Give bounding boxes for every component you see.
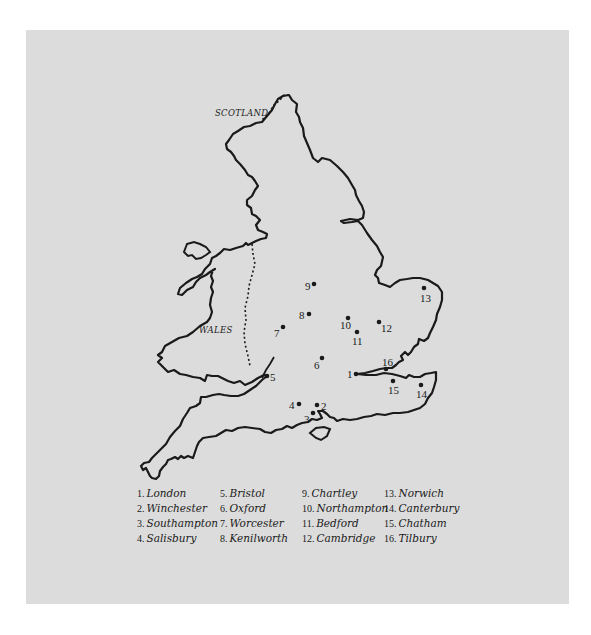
location-marker-bristol xyxy=(265,374,270,379)
legend-place-name: Winchester xyxy=(147,502,207,514)
legend-number: 13. xyxy=(384,488,397,499)
location-number-label: 5 xyxy=(270,371,276,383)
legend-number: 5. xyxy=(220,488,228,499)
legend-number: 2. xyxy=(137,503,145,514)
legend-place-name: Cambridge xyxy=(317,532,376,544)
location-number-label: 13 xyxy=(420,292,432,304)
location-number-label: 16 xyxy=(382,356,394,368)
legend-item: 11.Bedford xyxy=(302,516,384,531)
legend-place-name: Worcester xyxy=(230,517,284,529)
location-number-label: 12 xyxy=(381,322,392,334)
legend-item: 15.Chatham xyxy=(384,516,474,531)
legend-item: 5.Bristol xyxy=(220,486,302,501)
legend-place-name: Norwich xyxy=(399,487,445,499)
legend-item: 14.Canterbury xyxy=(384,501,474,516)
location-marker-kenilworth xyxy=(307,312,312,317)
legend-number: 8. xyxy=(220,533,228,544)
legend-item: 6.Oxford xyxy=(220,501,302,516)
location-number-label: 8 xyxy=(299,309,305,321)
legend: 1.London5.Bristol9.Chartley13.Norwich2.W… xyxy=(137,486,477,546)
wales-border xyxy=(244,244,255,366)
location-marker-canterbury xyxy=(419,383,424,388)
location-marker-oxford xyxy=(320,356,325,361)
location-number-label: 9 xyxy=(305,280,311,292)
legend-number: 16. xyxy=(384,533,397,544)
location-number-label: 1 xyxy=(347,368,353,380)
legend-item: 1.London xyxy=(137,486,220,501)
legend-number: 15. xyxy=(384,518,397,529)
location-marker-worcester xyxy=(281,325,286,330)
legend-number: 9. xyxy=(302,488,310,499)
location-number-label: 3 xyxy=(304,413,310,425)
legend-number: 3. xyxy=(137,518,145,529)
legend-number: 7. xyxy=(220,518,228,529)
legend-item: 10.Northampton xyxy=(302,501,384,516)
coastline xyxy=(141,95,442,479)
legend-place-name: Tilbury xyxy=(399,532,437,544)
legend-item: 8.Kenilworth xyxy=(220,531,302,546)
location-marker-london xyxy=(354,372,359,377)
location-marker-chatham xyxy=(391,379,396,384)
location-number-label: 10 xyxy=(340,319,352,331)
legend-place-name: Southampton xyxy=(147,517,219,529)
legend-number: 12. xyxy=(302,533,315,544)
legend-number: 10. xyxy=(302,503,315,514)
location-marker-norwich xyxy=(422,286,427,291)
anglesey-island xyxy=(184,242,210,259)
legend-place-name: Chatham xyxy=(399,517,447,529)
legend-item: 2.Winchester xyxy=(137,501,220,516)
legend-place-name: Chartley xyxy=(312,487,358,499)
legend-item: 7.Worcester xyxy=(220,516,302,531)
legend-place-name: Bristol xyxy=(230,487,265,499)
legend-place-name: Canterbury xyxy=(399,502,460,514)
location-number-label: 14 xyxy=(416,388,428,400)
location-number-label: 7 xyxy=(274,327,280,339)
legend-place-name: Oxford xyxy=(230,502,266,514)
legend-place-name: Salisbury xyxy=(147,532,197,544)
legend-place-name: Northampton xyxy=(317,502,389,514)
location-number-label: 2 xyxy=(321,400,327,412)
location-marker-bedford xyxy=(355,330,360,335)
legend-item: 9.Chartley xyxy=(302,486,384,501)
location-marker-chartley xyxy=(312,282,317,287)
legend-number: 14. xyxy=(384,503,397,514)
legend-item: 4.Salisbury xyxy=(137,531,220,546)
location-marker-salisbury xyxy=(297,402,302,407)
legend-number: 6. xyxy=(220,503,228,514)
location-number-label: 11 xyxy=(352,335,363,347)
legend-place-name: London xyxy=(147,487,187,499)
isle-of-wight xyxy=(310,427,330,440)
location-number-label: 4 xyxy=(289,399,295,411)
legend-item: 3.Southampton xyxy=(137,516,220,531)
legend-number: 4. xyxy=(137,533,145,544)
location-number-label: 15 xyxy=(388,384,400,396)
legend-item: 16.Tilbury xyxy=(384,531,474,546)
location-marker-winchester xyxy=(315,403,320,408)
legend-number: 1. xyxy=(137,488,145,499)
legend-number: 11. xyxy=(302,518,314,529)
region-label-wales: WALES xyxy=(199,325,233,335)
legend-place-name: Kenilworth xyxy=(230,532,289,544)
location-number-label: 6 xyxy=(314,359,320,371)
region-label-scotland: SCOTLAND xyxy=(215,108,268,118)
legend-item: 13.Norwich xyxy=(384,486,474,501)
legend-item: 12.Cambridge xyxy=(302,531,384,546)
legend-place-name: Bedford xyxy=(316,517,359,529)
location-marker-southampton xyxy=(311,411,316,416)
